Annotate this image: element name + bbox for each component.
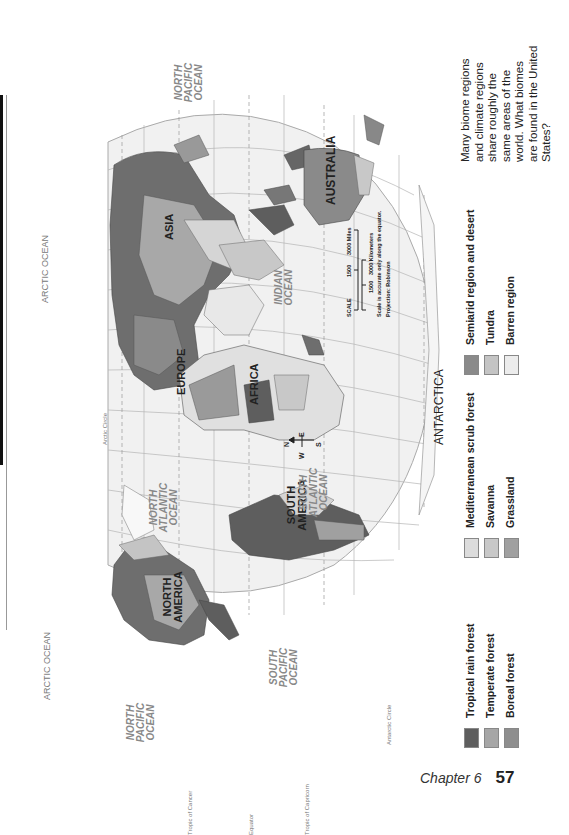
label-australia: AUSTRALIA bbox=[326, 136, 337, 205]
legend-swatch bbox=[484, 355, 499, 375]
compass-w: W bbox=[298, 452, 305, 459]
label-arctic-circle: Arctic Circle bbox=[102, 413, 108, 445]
label-antarctica: ANTARCTICA bbox=[434, 369, 445, 445]
label-arctic-ocean-top: ARCTIC OCEAN bbox=[40, 235, 50, 303]
label-north-pacific-left: NORTH PACIFIC OCEAN bbox=[126, 695, 156, 750]
map-graphic bbox=[34, 45, 446, 655]
label-indian-ocean: INDIAN OCEAN bbox=[274, 260, 294, 315]
page-footer: Chapter 657 bbox=[420, 768, 514, 788]
label-africa: AFRICA bbox=[249, 363, 260, 405]
compass-n: N bbox=[283, 442, 290, 447]
label-equator: Equator bbox=[248, 814, 254, 835]
legend-label: Grassland bbox=[504, 477, 516, 528]
legend-label: Boreal forest bbox=[504, 653, 516, 718]
page-number: 57 bbox=[495, 768, 514, 787]
label-antarctic-circle: Antarctic Circle bbox=[386, 705, 392, 745]
legend-label: Semiarid region and desert bbox=[464, 210, 476, 345]
label-south-pacific: SOUTH PACIFIC OCEAN bbox=[269, 640, 299, 695]
scale-miles-mid: 1500 bbox=[346, 265, 352, 277]
legend-swatch bbox=[504, 728, 519, 748]
page-margin-bar bbox=[0, 95, 3, 465]
legend-swatch bbox=[464, 728, 479, 748]
legend-label: Savanna bbox=[484, 485, 496, 528]
chapter-label: Chapter 6 bbox=[420, 770, 481, 786]
legend-swatch bbox=[464, 355, 479, 375]
label-north-atlantic: NORTH ATLANTIC OCEAN bbox=[149, 480, 179, 535]
compass-s: S bbox=[315, 442, 322, 447]
label-asia: ASIA bbox=[164, 214, 175, 240]
scale-projection: Projection: Robinson bbox=[385, 261, 391, 317]
compass-e: E bbox=[298, 432, 305, 437]
legend-label: Barren region bbox=[504, 276, 516, 345]
legend-swatch bbox=[484, 538, 499, 558]
legend-swatch bbox=[504, 355, 519, 375]
legend-label: Temperate forest bbox=[484, 634, 496, 718]
label-north-pacific-right: NORTH PACIFIC OCEAN bbox=[174, 55, 204, 110]
scale-km-mid: 1500 bbox=[368, 281, 374, 293]
legend-swatch bbox=[504, 538, 519, 558]
label-arctic-ocean-bottom: ARCTIC OCEAN bbox=[42, 632, 52, 700]
scale-miles-end: 3000 Miles bbox=[346, 227, 352, 255]
label-tropic-cancer: Tropic of Cancer bbox=[187, 791, 193, 835]
page-margin-rule bbox=[6, 95, 7, 630]
legend-label: Mediterranean scrub forest bbox=[464, 393, 476, 528]
label-europe: EUROPE bbox=[176, 349, 187, 395]
map-caption: Many biome regions and climate regions s… bbox=[459, 44, 554, 162]
legend-swatch bbox=[464, 538, 479, 558]
legend-label: Tropical rain forest bbox=[464, 623, 476, 718]
scale-km-end: 3000 Kilometers bbox=[368, 233, 374, 275]
scale-note: Scale is accurate only along the equator… bbox=[376, 211, 382, 317]
label-south-atlantic: SOUTH ATLANTIC OCEAN bbox=[299, 465, 329, 520]
scale-title: SCALE bbox=[346, 298, 352, 317]
world-biomes-map: ASIA AUSTRALIA EUROPE AFRICA ANTARCTICA … bbox=[34, 45, 446, 655]
legend-label: Tundra bbox=[484, 310, 496, 345]
label-tropic-capricorn: Tropic of Capricorn bbox=[304, 784, 310, 835]
label-north-america: NORTH AMERICA bbox=[162, 567, 184, 627]
legend-swatch bbox=[484, 728, 499, 748]
